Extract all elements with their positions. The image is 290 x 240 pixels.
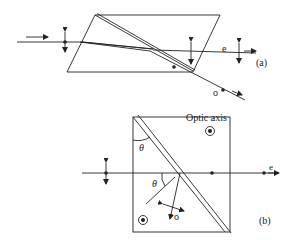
theta-arc-top (133, 137, 150, 141)
normal-line (146, 177, 175, 204)
polarizing-prism-diagram: e o (a) Optic axis θ θ e o (0, 0, 290, 240)
panel-a-e-label: e (222, 43, 227, 54)
b-e-dot-outside (262, 171, 266, 175)
theta-label-top: θ (139, 142, 144, 153)
incident-polarization-dot (63, 40, 67, 44)
o-b-polarization (163, 204, 184, 211)
ray-o-exit (150, 51, 245, 100)
panel-b-e-label: e (269, 162, 273, 172)
prism-b-interface-2 (138, 115, 231, 233)
theta-arc-mid (162, 173, 165, 186)
ray-e-inside-b (80, 42, 150, 51)
prism-b-outline (133, 117, 230, 232)
o-polarization-dot-outside (221, 88, 225, 92)
panel-b (82, 115, 279, 233)
b-e-dot-inside (210, 171, 214, 175)
theta-label-mid: θ (152, 178, 157, 189)
panel-a-o-label: o (213, 87, 218, 98)
panel-b-label: (b) (259, 215, 271, 227)
panel-b-o-label: o (174, 211, 179, 222)
optic-axis-label: Optic axis (186, 112, 227, 123)
prism-a-interface-1 (95, 15, 193, 71)
panel-a-label: (a) (256, 57, 267, 69)
prism-a-interface-2 (97, 14, 195, 71)
b-incident-dot (104, 171, 108, 175)
o-polarization-dot-inside (172, 65, 176, 69)
ray-e-exit (153, 50, 256, 53)
panel-a (17, 14, 256, 101)
ray-o-inside (82, 42, 153, 49)
